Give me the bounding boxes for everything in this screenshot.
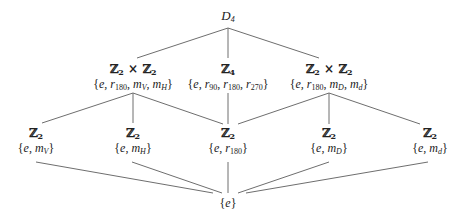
edge-klein_d-z2_md — [329, 93, 420, 124]
group-name: ℤ2 — [208, 126, 248, 141]
d4-subscript: 4 — [231, 15, 235, 24]
group-elements: {e, r90, r180, r270} — [188, 77, 269, 92]
edge-d4-klein_d — [228, 28, 319, 58]
edge-klein_d-z2_r180 — [238, 93, 329, 124]
edge-z2_mh-trivial — [132, 162, 222, 193]
edge-z2_mv-trivial — [36, 162, 213, 193]
edge-klein_v-z2_r180 — [133, 93, 223, 124]
d4-label: D — [221, 8, 230, 23]
node-z2-r180: ℤ2 {e, r180} — [208, 126, 248, 156]
edge-klein_v-z2_mv — [42, 93, 133, 123]
lattice-edges — [0, 0, 464, 223]
node-z4: ℤ4 {e, r90, r180, r270} — [188, 62, 269, 92]
group-elements: {e, r180, mD, md} — [290, 77, 369, 92]
edge-z2_md_cap-trivial — [238, 162, 329, 193]
node-d4: D4 — [221, 8, 234, 23]
group-elements: {e} — [220, 196, 237, 211]
group-name: ℤ2 — [18, 126, 54, 141]
group-name: ℤ4 — [188, 62, 269, 77]
group-name: ℤ2 — [310, 126, 347, 141]
group-elements: {e, mD} — [310, 141, 347, 156]
group-elements: {e, md} — [412, 141, 448, 156]
group-elements: {e, mV} — [18, 141, 54, 156]
edge-d4-klein_v — [137, 28, 228, 58]
node-trivial: {e} — [220, 196, 237, 211]
group-elements: {e, r180} — [208, 141, 248, 156]
node-z2-mD: ℤ2 {e, mD} — [310, 126, 347, 156]
group-name: ℤ2 — [412, 126, 448, 141]
node-z2-md: ℤ2 {e, md} — [412, 126, 448, 156]
subgroup-lattice-diagram: D4 ℤ2 × ℤ2 {e, r180, mV, mH} ℤ4 {e, r90,… — [0, 0, 464, 223]
group-elements: {e, r180, mV, mH} — [93, 77, 173, 92]
edge-z2_md-trivial — [246, 162, 428, 193]
group-name: ℤ2 × ℤ2 — [290, 62, 369, 77]
group-elements: {e, mH} — [114, 141, 151, 156]
node-klein-d: ℤ2 × ℤ2 {e, r180, mD, md} — [290, 62, 369, 92]
node-klein-v: ℤ2 × ℤ2 {e, r180, mV, mH} — [93, 62, 173, 92]
node-z2-mv: ℤ2 {e, mV} — [18, 126, 54, 156]
group-name: ℤ2 — [114, 126, 151, 141]
group-name: ℤ2 × ℤ2 — [93, 62, 173, 77]
node-z2-mh: ℤ2 {e, mH} — [114, 126, 151, 156]
